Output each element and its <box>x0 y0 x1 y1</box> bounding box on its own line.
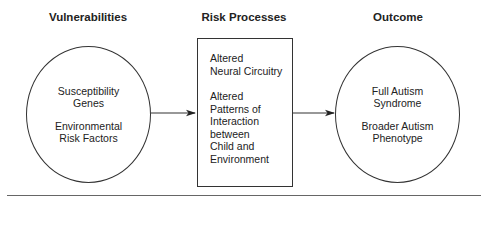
altered-interaction-patterns-label: Altered Patterns of Interaction between … <box>210 90 292 165</box>
text-line: Phenotype <box>362 132 434 145</box>
text-line: Environmental <box>55 120 122 133</box>
environmental-risk-factors-label: Environmental Risk Factors <box>55 120 122 145</box>
text-line: Child and <box>210 140 292 153</box>
text-line: Patterns of <box>210 103 292 116</box>
susceptibility-genes-label: Susceptibility Genes <box>58 85 119 110</box>
broader-autism-phenotype-label: Broader Autism Phenotype <box>362 120 434 145</box>
text-line: Neural Circuitry <box>210 65 292 78</box>
text-line: Altered <box>210 52 292 65</box>
text-line: Syndrome <box>372 97 423 110</box>
altered-neural-circuitry-label: Altered Neural Circuitry <box>210 52 292 77</box>
bottom-divider <box>7 195 481 196</box>
text-line: Interaction <box>210 115 292 128</box>
vulnerabilities-node: Susceptibility Genes Environmental Risk … <box>26 46 151 183</box>
text-line: between <box>210 128 292 141</box>
risk-processes-node: Altered Neural Circuitry Altered Pattern… <box>197 38 293 187</box>
text-line: Full Autism <box>372 85 423 98</box>
text-line: Altered <box>210 90 292 103</box>
text-line: Broader Autism <box>362 120 434 133</box>
text-line: Susceptibility <box>58 85 119 98</box>
outcome-node: Full Autism Syndrome Broader Autism Phen… <box>335 46 460 183</box>
full-autism-syndrome-label: Full Autism Syndrome <box>372 85 423 110</box>
text-line: Environment <box>210 153 292 166</box>
text-line: Risk Factors <box>55 132 122 145</box>
text-line: Genes <box>58 97 119 110</box>
